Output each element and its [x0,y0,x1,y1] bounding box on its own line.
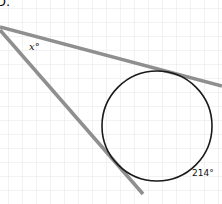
corner-text-fragment: D. [0,0,10,9]
arc-angle-label: 214° [192,168,214,178]
geometry-diagram: D. x° 214° [0,0,222,204]
diagram-canvas [0,0,222,204]
angle-x-label: x° [29,41,40,52]
grid-background [0,0,222,204]
